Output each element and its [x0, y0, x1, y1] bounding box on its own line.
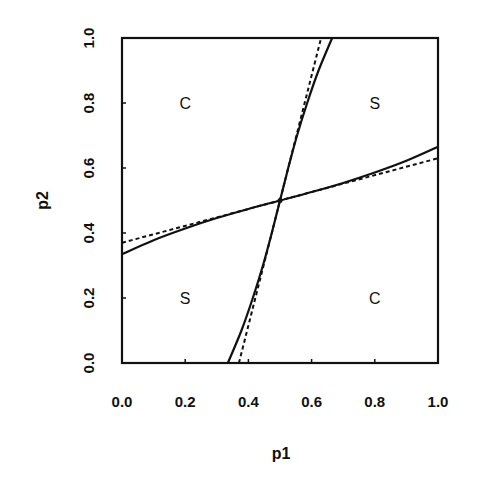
chart: 0.00.20.40.60.81.0 0.00.20.40.60.81.0 CS…: [0, 0, 478, 486]
region-label: S: [180, 290, 191, 307]
x-tick-label: 0.4: [238, 393, 260, 410]
y-tick-label: 0.8: [80, 93, 97, 114]
x-axis-ticks: 0.00.20.40.60.81.0: [112, 359, 449, 410]
x-axis-label: p1: [272, 445, 291, 462]
x-tick-label: 0.8: [364, 393, 385, 410]
y-tick-label: 0.4: [80, 222, 97, 244]
x-tick-label: 0.6: [301, 393, 322, 410]
y-tick-label: 0.2: [80, 288, 97, 309]
plot-curves: [122, 38, 438, 363]
y-tick-label: 0.0: [80, 353, 97, 374]
region-label: C: [179, 95, 191, 112]
x-tick-label: 1.0: [428, 393, 449, 410]
y-axis-label: p2: [34, 191, 51, 210]
y-axis-ticks: 0.00.20.40.60.81.0: [80, 28, 126, 374]
y-tick-label: 0.6: [80, 158, 97, 179]
x-tick-label: 0.2: [175, 393, 196, 410]
region-label: S: [369, 95, 380, 112]
y-tick-label: 1.0: [80, 28, 97, 49]
intersection-point: [278, 198, 283, 203]
x-tick-label: 0.0: [112, 393, 133, 410]
region-label: C: [369, 290, 381, 307]
